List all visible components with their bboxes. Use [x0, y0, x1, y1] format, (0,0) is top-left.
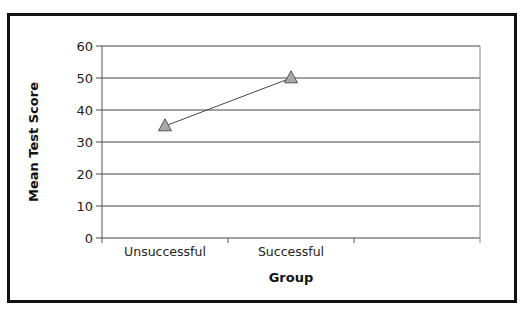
- y-tick-label: 50: [76, 71, 93, 86]
- data-series: [159, 71, 298, 131]
- x-axis-title: Group: [269, 270, 314, 285]
- x-axis-ticks: UnsuccessfulSuccessful: [124, 238, 354, 259]
- y-tick-label: 30: [76, 135, 93, 150]
- x-category-label: Successful: [258, 244, 324, 259]
- y-tick-label: 10: [76, 199, 93, 214]
- line-chart: 0102030405060 UnsuccessfulSuccessful Gro…: [0, 0, 525, 314]
- y-axis-ticks: 0102030405060: [76, 39, 102, 246]
- x-category-label: Unsuccessful: [124, 244, 206, 259]
- series-line: [165, 78, 291, 126]
- y-tick-label: 40: [76, 103, 93, 118]
- y-tick-label: 20: [76, 167, 93, 182]
- y-axis-title: Mean Test Score: [26, 82, 41, 202]
- y-tick-label: 0: [85, 231, 93, 246]
- triangle-marker-icon: [285, 71, 298, 83]
- y-tick-label: 60: [76, 39, 93, 54]
